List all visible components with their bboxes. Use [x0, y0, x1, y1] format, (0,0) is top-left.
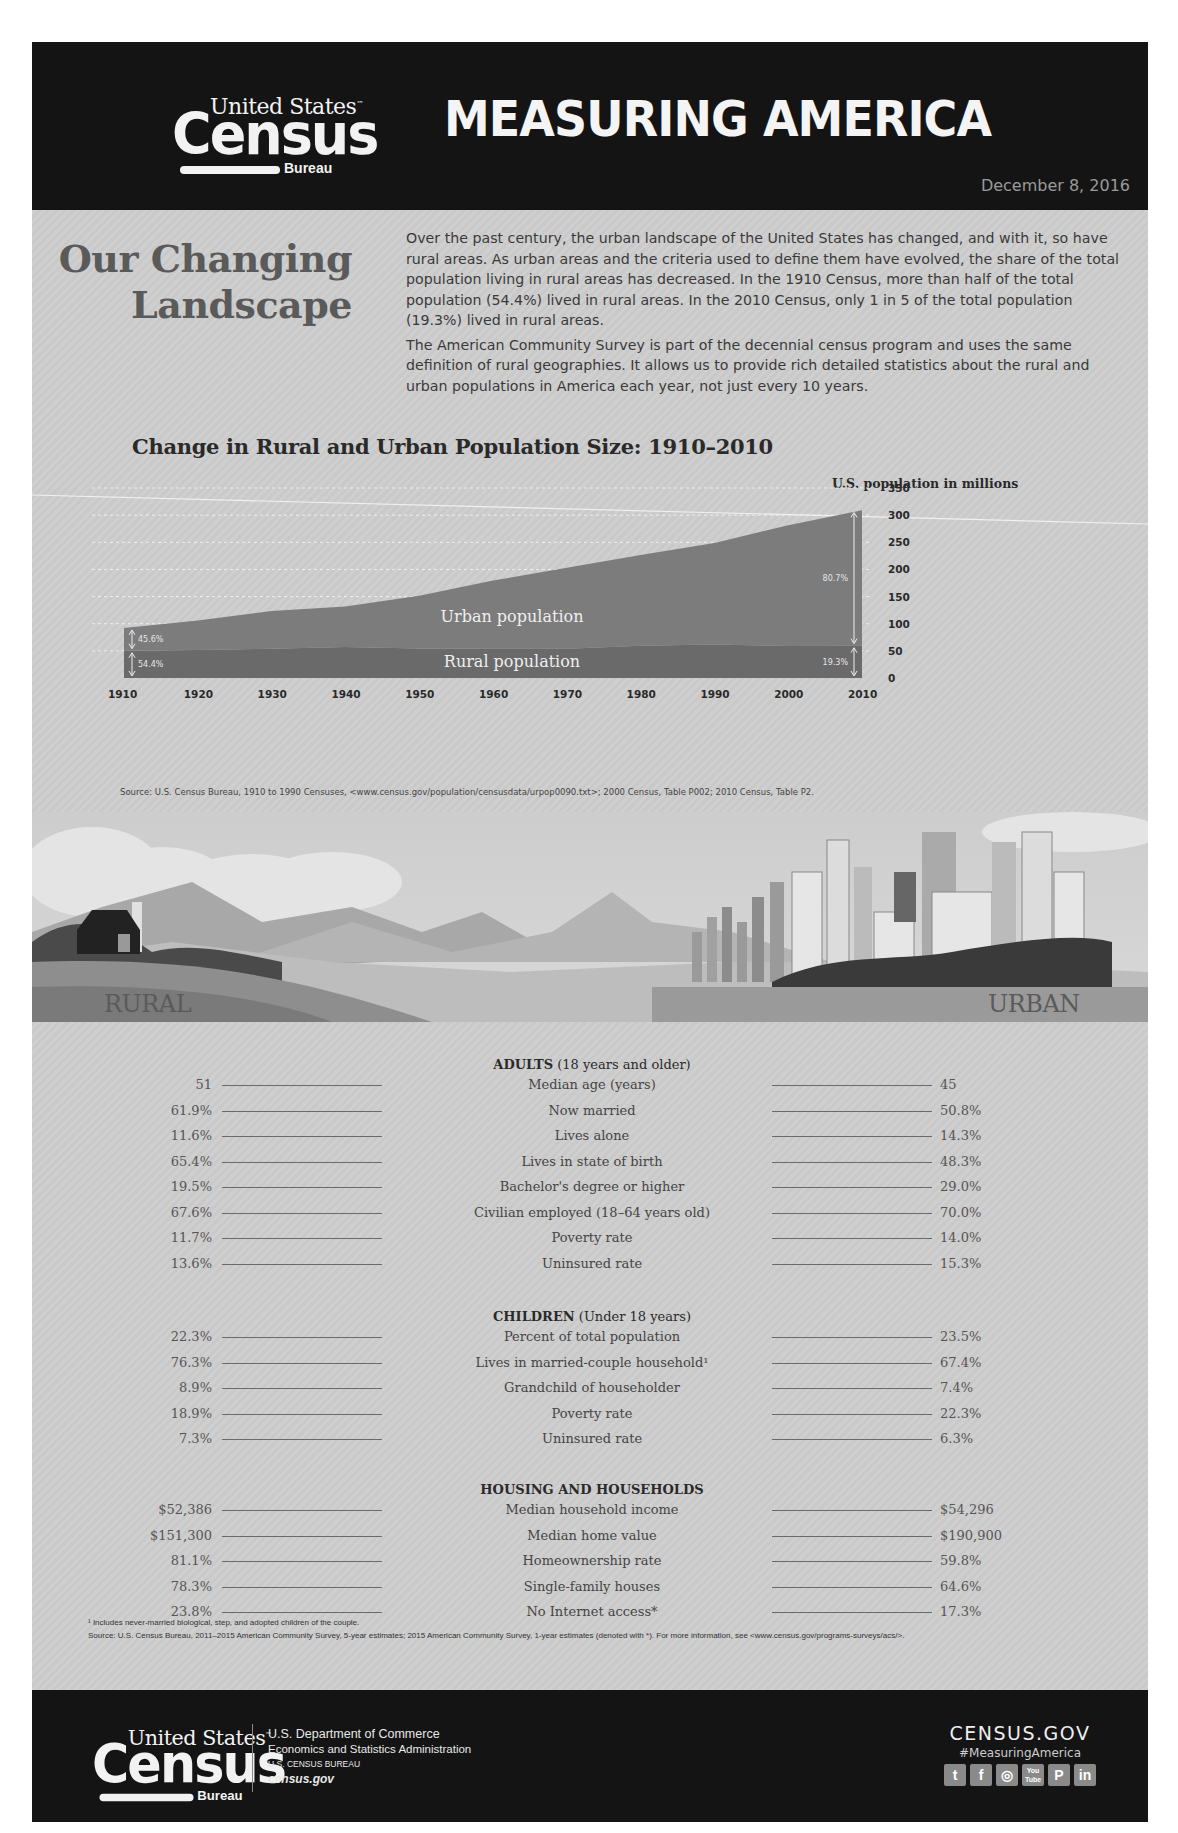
intro-paragraph-2: The American Community Survey is part of… [406, 335, 1126, 397]
logo-bar [180, 166, 280, 174]
census-logo[interactable]: United States™ Census Bureau [172, 94, 352, 184]
leader-line [772, 1510, 932, 1511]
leader-line [772, 1612, 932, 1613]
y-tick-label: 50 [888, 645, 903, 657]
chart-source: Source: U.S. Census Bureau, 1910 to 1990… [120, 787, 814, 797]
urban-value: 14.0% [940, 1230, 981, 1245]
leader-line [772, 1238, 932, 1239]
header-banner: United States™ Census Bureau MEASURING A… [32, 42, 1148, 210]
rural-value: 22.3% [92, 1329, 212, 1344]
rural-value: 7.3% [92, 1431, 212, 1446]
department-info: U.S. Department of Commerce Economics an… [268, 1726, 471, 1787]
rural-value: 11.7% [92, 1230, 212, 1245]
section-title: ADULTS (18 years and older) [332, 1057, 852, 1072]
y-tick-label: 250 [888, 536, 910, 548]
urban-value: 7.4% [940, 1380, 973, 1395]
urban-area-label: Urban population [441, 607, 584, 626]
population-area-chart: Urban populationRural population45.6%54.… [32, 482, 1148, 782]
rural-header: RURAL [104, 990, 191, 1018]
share-label: 45.6% [138, 635, 164, 644]
youtube-icon[interactable]: You Tube [1022, 1764, 1044, 1786]
rural-value: 51 [92, 1077, 212, 1092]
census-gov-site-link[interactable]: CENSUS.GOV [944, 1722, 1096, 1744]
y-tick-label: 150 [888, 591, 910, 603]
rural-value: 11.6% [92, 1128, 212, 1143]
decorative-line [32, 495, 1148, 524]
rural-value: $52,386 [92, 1502, 212, 1517]
rural-value: 67.6% [92, 1205, 212, 1220]
x-tick-label: 1960 [479, 688, 508, 700]
urban-value: 67.4% [940, 1355, 981, 1370]
footnotes: ¹ Includes never-married biological, ste… [88, 1616, 904, 1642]
logo-bureau: Bureau [284, 160, 332, 176]
table-row: 18.9%Poverty rate22.3% [32, 1404, 1148, 1426]
poster: United States™ Census Bureau MEASURING A… [32, 42, 1148, 1822]
table-row: 78.3%Single-family houses64.6% [32, 1577, 1148, 1599]
table-row: 61.9%Now married50.8% [32, 1101, 1148, 1123]
leader-line [772, 1414, 932, 1415]
section-heading: Our Changing Landscape [52, 236, 352, 328]
y-tick-label: 0 [888, 672, 895, 684]
y-tick-label: 100 [888, 618, 910, 630]
x-tick-label: 1950 [405, 688, 434, 700]
leader-line [772, 1337, 932, 1338]
leader-line [772, 1363, 932, 1364]
leader-line [772, 1136, 932, 1137]
urban-value: 17.3% [940, 1604, 981, 1619]
twitter-icon[interactable]: t [944, 1764, 966, 1786]
table-row: 8.9%Grandchild of householder7.4% [32, 1378, 1148, 1400]
leader-line [772, 1439, 932, 1440]
facebook-icon[interactable]: f [970, 1764, 992, 1786]
table-row: 67.6%Civilian employed (18–64 years old)… [32, 1203, 1148, 1225]
x-tick-label: 1980 [627, 688, 656, 700]
urban-value: 59.8% [940, 1553, 981, 1568]
urban-value: $190,900 [940, 1528, 1002, 1543]
urban-value: 70.0% [940, 1205, 981, 1220]
x-tick-label: 1940 [331, 688, 360, 700]
intro-text: Over the past century, the urban landsca… [406, 228, 1126, 400]
x-tick-label: 1930 [258, 688, 287, 700]
rural-value: 81.1% [92, 1553, 212, 1568]
table-row: 65.4%Lives in state of birth48.3% [32, 1152, 1148, 1174]
x-tick-label: 1970 [553, 688, 582, 700]
share-label: 19.3% [823, 658, 849, 667]
urban-value: 45 [940, 1077, 957, 1092]
footer-banner: United States™ Census Bureau U.S. Depart… [32, 1690, 1148, 1822]
table-row: 51Median age (years)45 [32, 1075, 1148, 1097]
intro-paragraph-1: Over the past century, the urban landsca… [406, 228, 1126, 331]
x-tick-label: 1920 [184, 688, 213, 700]
table-row: $151,300Median home value$190,900 [32, 1526, 1148, 1548]
urban-area [124, 510, 862, 650]
pinterest-icon[interactable]: P [1048, 1764, 1070, 1786]
leader-line [772, 1162, 932, 1163]
rural-value: 19.5% [92, 1179, 212, 1194]
footer-census-logo[interactable]: United States™ Census Bureau [92, 1726, 242, 1805]
urban-value: 14.3% [940, 1128, 981, 1143]
urban-value: 15.3% [940, 1256, 981, 1271]
share-label: 80.7% [823, 574, 849, 583]
leader-line [772, 1213, 932, 1214]
linkedin-icon[interactable]: in [1074, 1764, 1096, 1786]
leader-line [772, 1587, 932, 1588]
table-row: 13.6%Uninsured rate15.3% [32, 1254, 1148, 1276]
urban-value: 50.8% [940, 1103, 981, 1118]
urban-value: 29.0% [940, 1179, 981, 1194]
urban-value: 6.3% [940, 1431, 973, 1446]
census-gov-link[interactable]: census.gov [268, 1771, 471, 1787]
section-title: HOUSING AND HOUSEHOLDS [332, 1482, 852, 1497]
rural-value: 78.3% [92, 1579, 212, 1594]
publish-date: December 8, 2016 [981, 176, 1130, 195]
table-row: 7.3%Uninsured rate6.3% [32, 1429, 1148, 1451]
share-label: 54.4% [138, 660, 164, 669]
footnote-1: ¹ Includes never-married biological, ste… [88, 1616, 904, 1629]
y-tick-label: 300 [888, 509, 910, 521]
urban-value: 22.3% [940, 1406, 981, 1421]
chart-title: Change in Rural and Urban Population Siz… [132, 434, 773, 459]
x-tick-label: 1910 [108, 688, 137, 700]
landscape-illustration [32, 812, 1148, 1022]
instagram-icon[interactable]: ◎ [996, 1764, 1018, 1786]
rural-value: 18.9% [92, 1406, 212, 1421]
urban-value: 64.6% [940, 1579, 981, 1594]
leader-line [772, 1187, 932, 1188]
page-title: MEASURING AMERICA [444, 90, 991, 148]
